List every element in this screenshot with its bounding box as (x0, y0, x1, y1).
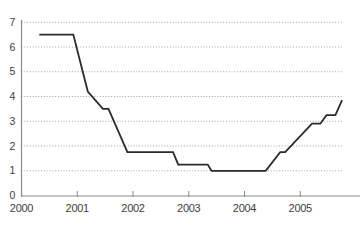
y-tick-label: 7 (9, 16, 15, 28)
line-chart: 20002001200220032004200501234567 (0, 0, 363, 230)
y-tick-label: 4 (9, 90, 15, 102)
x-tick-label: 2001 (66, 202, 89, 214)
y-tick-label: 5 (9, 65, 15, 77)
y-tick-label: 1 (9, 164, 15, 176)
y-tick-label: 2 (9, 140, 15, 152)
y-tick-label: 0 (9, 189, 15, 201)
y-tick-label: 6 (9, 41, 15, 53)
chart-canvas: 20002001200220032004200501234567 (0, 0, 363, 230)
x-tick-label: 2004 (233, 202, 256, 214)
x-tick-label: 2000 (10, 202, 33, 214)
x-tick-label: 2005 (289, 202, 312, 214)
y-tick-label: 3 (9, 115, 15, 127)
x-tick-label: 2002 (121, 202, 144, 214)
data-line-interest-rate (39, 35, 342, 171)
x-tick-label: 2003 (177, 202, 200, 214)
